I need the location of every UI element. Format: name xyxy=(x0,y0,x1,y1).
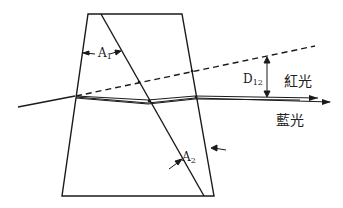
a2-label-sub: 2 xyxy=(191,156,196,165)
red-light-label: 紅光 xyxy=(284,74,312,88)
d12-dimension-marker xyxy=(264,57,270,97)
a1-label-main: A xyxy=(98,46,107,60)
d12-label: D12 xyxy=(243,73,263,87)
blue-light-label: 藍光 xyxy=(276,113,304,127)
dispersed-beam xyxy=(76,96,330,104)
incident-ray xyxy=(18,96,75,107)
a2-label-main: A xyxy=(182,150,191,164)
prism-outline xyxy=(62,14,214,196)
d12-label-sub: 12 xyxy=(253,78,263,87)
blue-ray-arrowhead xyxy=(322,99,331,105)
d12-label-main: D xyxy=(243,72,253,86)
prism-interface-line xyxy=(101,14,204,196)
red-ray-arrowhead xyxy=(309,95,318,101)
prism-diagram xyxy=(0,0,343,208)
a1-label: A1 xyxy=(98,47,112,61)
a1-label-sub: 1 xyxy=(107,52,112,61)
ray-intersection-marks xyxy=(138,70,198,103)
a2-label: A2 xyxy=(182,151,196,165)
